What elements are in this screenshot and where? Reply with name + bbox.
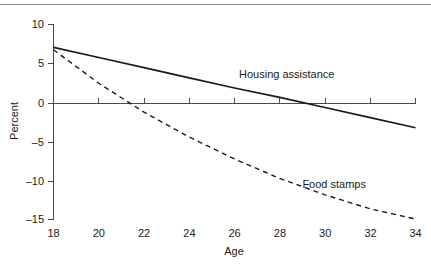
y-axis-title: Percent xyxy=(8,102,20,140)
x-tick-label-24: 24 xyxy=(183,227,195,239)
x-axis: 18 20 22 24 26 28 30 32 34 xyxy=(47,98,421,239)
y-tick-label-minus15: –15 xyxy=(26,213,44,225)
x-tick-label-22: 22 xyxy=(138,227,150,239)
x-axis-title: Age xyxy=(224,245,244,257)
y-axis: 10 5 0 –5 –10 –15 xyxy=(26,18,54,225)
x-tick-label-34: 34 xyxy=(409,227,421,239)
series-line-housing-assistance xyxy=(54,47,416,127)
x-tick-label-26: 26 xyxy=(228,227,240,239)
x-tick-label-30: 30 xyxy=(319,227,331,239)
x-tick-label-28: 28 xyxy=(274,227,286,239)
series-label-housing-assistance: Housing assistance xyxy=(239,68,334,80)
figure-container: 10 5 0 –5 –10 –15 18 20 22 24 26 28 30 3… xyxy=(0,0,431,264)
series-line-food-stamps xyxy=(54,50,416,219)
x-tick-label-32: 32 xyxy=(364,227,376,239)
y-tick-label-minus5: –5 xyxy=(32,136,44,148)
y-tick-label-minus10: –10 xyxy=(26,175,44,187)
series-group xyxy=(54,47,416,219)
x-tick-label-18: 18 xyxy=(47,227,59,239)
series-label-food-stamps: Food stamps xyxy=(302,178,366,190)
y-tick-label-10: 10 xyxy=(32,18,44,30)
line-chart: 10 5 0 –5 –10 –15 18 20 22 24 26 28 30 3… xyxy=(0,0,431,264)
y-tick-label-5: 5 xyxy=(38,57,44,69)
x-tick-label-20: 20 xyxy=(93,227,105,239)
y-tick-label-0: 0 xyxy=(38,97,44,109)
